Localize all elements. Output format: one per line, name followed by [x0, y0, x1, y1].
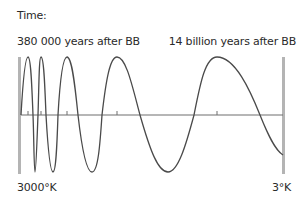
start-boundary-bar	[18, 57, 21, 174]
redshift-wave-diagram	[0, 0, 302, 199]
